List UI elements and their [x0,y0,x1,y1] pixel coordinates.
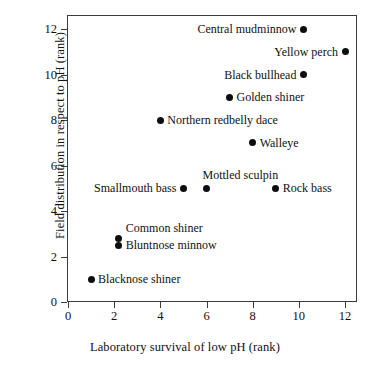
data-point [180,185,187,192]
x-axis-title: Laboratory survival of low pH (rank) [0,340,370,355]
data-point-label: Rock bass [283,182,332,194]
data-point [115,242,122,249]
y-tick-label: 0 [17,296,57,309]
x-tick-label: 6 [187,310,227,323]
y-tick-label: 2 [17,250,57,263]
y-tick-label: 12 [17,23,57,36]
data-point-label: Bluntnose minnow [126,239,217,251]
x-tick-label: 10 [279,310,319,323]
data-point-label: Common shiner [126,222,203,234]
data-point [342,48,349,55]
data-point-label: Yellow perch [274,46,338,58]
scatter-plot-figure: 024681012 024681012 Central mudminnowYel… [0,0,370,370]
data-point [157,117,164,124]
data-point [300,26,307,33]
x-tick-mark [68,302,69,308]
x-tick-label: 0 [48,310,88,323]
x-tick-label: 2 [94,310,134,323]
data-point-label: Black bullhead [224,69,296,81]
y-tick-label: 10 [17,68,57,81]
data-point [226,94,233,101]
data-point-label: Walleye [260,137,299,149]
x-tick-label: 8 [233,310,273,323]
x-tick-mark [345,302,346,308]
x-tick-mark [299,302,300,308]
data-point [203,185,210,192]
y-tick-mark [61,302,67,303]
data-point [300,71,307,78]
x-tick-label: 12 [325,310,365,323]
x-tick-label: 4 [140,310,180,323]
data-point-label: Central mudminnow [197,23,296,35]
data-point-label: Smallmouth bass [94,182,176,194]
y-axis-title: Field distribution in respect to pH (ran… [53,0,68,286]
y-tick-label: 4 [17,205,57,218]
data-point [88,276,95,283]
data-point-label: Golden shiner [237,91,305,103]
data-point-label: Mottled sculpin [203,169,279,181]
data-point [272,185,279,192]
x-tick-mark [207,302,208,308]
y-tick-label: 6 [17,159,57,172]
x-tick-mark [114,302,115,308]
data-point-label: Blacknose shiner [98,273,180,285]
y-tick-label: 8 [17,114,57,127]
x-tick-mark [253,302,254,308]
x-tick-mark [160,302,161,308]
data-point-label: Northern redbelly dace [167,114,278,126]
